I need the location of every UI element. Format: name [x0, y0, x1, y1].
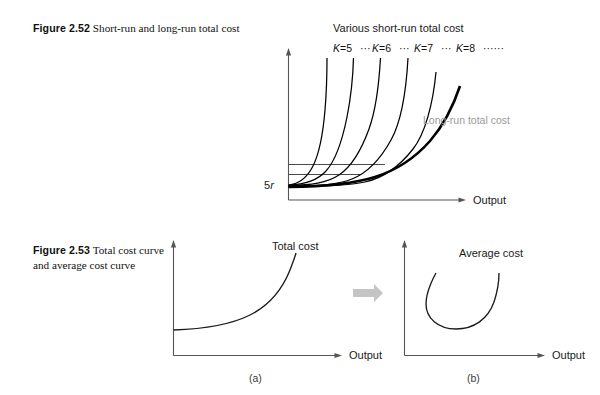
long-run-total-cost-label: Long-run total cost	[423, 114, 510, 126]
average-cost-curve	[426, 273, 499, 329]
figure-2-52-chart: Various short-run total cost K=5 ··· K=6…	[255, 14, 555, 219]
figure-2-53-number: Figure 2.53	[33, 244, 90, 256]
panel-b-sublabel: (b)	[467, 372, 480, 384]
fixed-cost-lines	[289, 165, 386, 175]
figure-2-52-number: Figure 2.52	[33, 22, 90, 34]
panel-b-xaxis-label: Output	[552, 349, 585, 361]
figure-2-53-caption: Figure 2.53 Total cost curve and average…	[33, 243, 165, 273]
total-cost-curve	[174, 253, 297, 330]
series-label-k7: K=7	[414, 42, 433, 54]
figure-page: Figure 2.52 Short-run and long-run total…	[0, 0, 600, 395]
figure-2-53-panel-a: Total cost Output (a)	[171, 240, 382, 384]
short-run-family-title: Various short-run total cost	[333, 22, 464, 34]
average-cost-curve-label: Average cost	[459, 247, 523, 259]
figure-2-52-xaxis-label: Output	[473, 194, 506, 206]
y-axis-tick-label-5r: 5r	[264, 179, 275, 191]
figure-2-52-caption-text: Short-run and long-run total cost	[93, 22, 240, 34]
series-label-k5: K=5	[333, 42, 352, 54]
series-label-k6: K=6	[372, 42, 391, 54]
series-separator-1: ···	[360, 42, 371, 54]
figure-2-53-chart: Total cost Output (a) Average cost Outpu…	[150, 232, 590, 387]
short-run-curve-k6	[289, 58, 381, 186]
total-cost-curve-label: Total cost	[272, 240, 318, 252]
series-label-k8: K=8	[456, 42, 475, 54]
short-run-curve-k4	[289, 58, 328, 185]
figure-2-52-caption: Figure 2.52 Short-run and long-run total…	[33, 21, 240, 36]
figure-2-53-panel-b: Average cost Output (b)	[402, 240, 585, 384]
short-run-total-cost-curves	[289, 58, 437, 187]
series-separator-2: ···	[399, 42, 410, 54]
long-run-total-cost-curve	[289, 86, 461, 187]
short-run-curve-k5	[289, 58, 354, 185]
short-run-series-labels: K=5 ··· K=6 ··· K=7 ··· K=8 ······	[333, 42, 504, 54]
panel-a-sublabel: (a)	[249, 372, 262, 384]
right-block-arrow-icon	[353, 284, 383, 302]
series-separator-4: ······	[483, 42, 504, 54]
panel-a-xaxis-label: Output	[349, 349, 382, 361]
series-separator-3: ···	[441, 42, 452, 54]
